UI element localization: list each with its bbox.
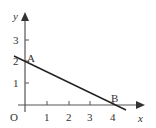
x-axis-arrow-icon (136, 101, 145, 109)
x-tick-label-1: 1 (44, 111, 50, 123)
coordinate-diagram: y x O 1 2 3 4 1 2 3 A B (0, 0, 156, 128)
point-b-label: B (111, 92, 118, 104)
origin-label: O (10, 111, 18, 123)
y-tick-label-1: 1 (13, 77, 19, 89)
y-axis-arrow-icon (21, 12, 29, 21)
x-tick-label-4: 4 (110, 111, 116, 123)
y-axis-label: y (12, 10, 18, 22)
point-a-label: A (27, 52, 35, 64)
x-axis-label: x (137, 112, 143, 124)
y-tick-label-2: 2 (13, 55, 19, 67)
x-tick-label-3: 3 (87, 111, 93, 123)
y-tick-label-3: 3 (13, 34, 19, 46)
line-ab (14, 56, 126, 110)
x-tick-label-2: 2 (66, 111, 72, 123)
